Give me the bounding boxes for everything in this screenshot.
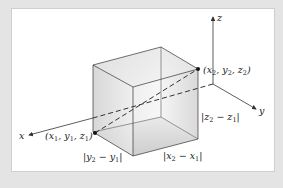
box-diagram: [0, 0, 283, 188]
z-axis-label: z: [217, 13, 222, 23]
dz-label: |z2 − z1|: [201, 112, 240, 124]
x-axis-label: x: [19, 131, 24, 141]
point-2-marker: [196, 67, 200, 71]
dx-label: |x2 − x1|: [163, 151, 202, 163]
point-1-label: (x1, y1, z1): [45, 131, 93, 143]
y-axis: [213, 84, 256, 109]
dy-label: |y2 − y1|: [83, 152, 122, 164]
point-1-marker: [93, 131, 97, 135]
y-axis-label: y: [259, 106, 264, 116]
point-2-label: (x2, y2, z2): [203, 65, 251, 77]
coordinate-axes: [213, 17, 256, 109]
